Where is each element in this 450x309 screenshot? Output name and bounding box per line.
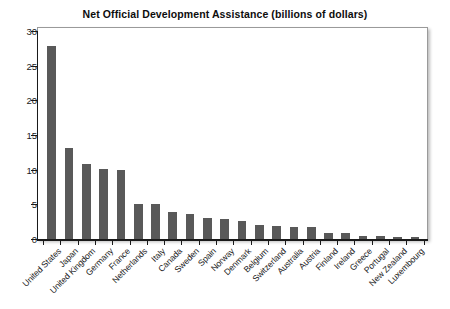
bars-layer (37, 28, 428, 239)
chart-title: Net Official Development Assistance (bil… (0, 8, 450, 20)
bar (65, 148, 74, 239)
y-axis: 051015202530 (0, 0, 37, 309)
chart-figure: Net Official Development Assistance (bil… (0, 0, 450, 309)
bar (47, 46, 56, 239)
x-tick-mark (43, 240, 44, 245)
